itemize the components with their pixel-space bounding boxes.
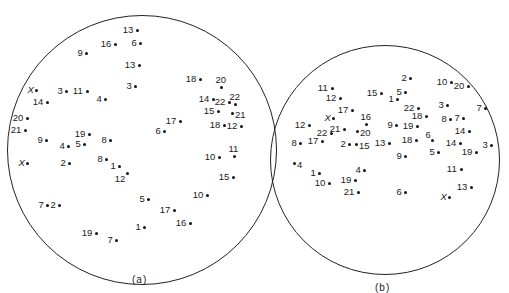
point-marker: [67, 145, 70, 148]
point-label: 12: [326, 93, 337, 103]
point-label: 3: [482, 140, 487, 150]
point-marker: [138, 64, 141, 67]
point-marker: [147, 198, 150, 201]
point-marker: [415, 139, 418, 142]
point-marker: [484, 107, 487, 110]
point-marker: [240, 125, 243, 128]
point-marker: [136, 29, 139, 32]
point-label: 8: [97, 154, 102, 164]
point-label: 10: [315, 178, 326, 188]
point-label: 14: [33, 97, 44, 107]
point-marker: [328, 182, 331, 185]
point-marker: [83, 143, 86, 146]
point-label: 13: [375, 138, 386, 148]
point-marker: [330, 132, 333, 135]
point-label: 4: [355, 165, 360, 175]
point-marker: [470, 186, 473, 189]
point-marker: [363, 169, 366, 172]
point-marker: [321, 140, 324, 143]
point-marker: [104, 98, 107, 101]
point-label: 11: [447, 164, 457, 174]
point-label: 18: [402, 135, 413, 145]
point-label: 1: [110, 161, 115, 171]
point-marker: [24, 129, 27, 132]
point-label: 10: [205, 152, 216, 162]
point-marker: [404, 155, 407, 158]
point-marker: [355, 143, 358, 146]
point-label: 8: [441, 114, 446, 124]
point-marker: [448, 196, 451, 199]
point-marker: [431, 139, 434, 142]
point-label: 17: [308, 136, 319, 146]
point-label: 15: [219, 172, 230, 182]
point-marker: [46, 101, 49, 104]
point-marker: [134, 85, 137, 88]
point-label: 13: [457, 182, 468, 192]
point-marker: [468, 130, 471, 133]
point-label: 19: [75, 129, 86, 139]
point-marker: [218, 156, 221, 159]
point-marker: [179, 120, 182, 123]
point-label: 10: [437, 77, 448, 87]
point-label: X: [27, 85, 33, 95]
point-marker: [26, 117, 29, 120]
point-marker: [293, 162, 296, 165]
point-label: 1: [135, 222, 140, 232]
point-label: 17: [166, 116, 177, 126]
point-label: 12: [227, 121, 238, 131]
point-marker: [46, 204, 49, 207]
point-label: 4: [297, 160, 302, 170]
point-marker: [65, 90, 68, 93]
point-marker: [45, 139, 48, 142]
point-marker: [206, 194, 209, 197]
point-marker: [357, 191, 360, 194]
point-label: 10: [193, 190, 204, 200]
point-marker: [446, 104, 449, 107]
point-label: 4: [59, 141, 64, 151]
point-label: 9: [77, 48, 82, 58]
point-marker: [220, 86, 223, 89]
point-label: 17: [160, 205, 171, 215]
point-label: 9: [37, 135, 42, 145]
point-label: 18: [412, 111, 423, 121]
point-marker: [118, 165, 121, 168]
point-marker: [365, 123, 368, 126]
point-label: 11: [73, 86, 83, 96]
point-marker: [467, 85, 470, 88]
point-marker: [114, 43, 117, 46]
point-marker: [409, 77, 412, 80]
point-marker: [139, 42, 142, 45]
point-marker: [356, 130, 359, 133]
point-marker: [95, 232, 98, 235]
point-label: 2: [60, 158, 65, 168]
point-marker: [475, 151, 478, 154]
point-marker: [85, 52, 88, 55]
point-label: 14: [199, 94, 210, 104]
point-label: 5: [139, 194, 144, 204]
point-marker: [425, 115, 428, 118]
point-label: 7: [38, 200, 43, 210]
point-label: 3: [57, 86, 62, 96]
point-marker: [26, 162, 29, 165]
point-label: 18: [210, 120, 221, 130]
point-label: 9: [396, 151, 401, 161]
point-marker: [416, 125, 419, 128]
point-marker: [115, 239, 118, 242]
point-marker: [348, 143, 351, 146]
point-label: X: [324, 113, 330, 123]
point-marker: [86, 90, 89, 93]
point-marker: [232, 176, 235, 179]
point-label: 6: [155, 126, 160, 136]
point-label: 1: [388, 94, 393, 104]
point-marker: [109, 139, 112, 142]
point-label: 16: [176, 218, 187, 228]
point-label: 3: [438, 100, 443, 110]
point-marker: [404, 91, 407, 94]
point-label: 6: [425, 130, 430, 140]
point-label: 6: [131, 38, 136, 48]
point-marker: [395, 124, 398, 127]
point-marker: [396, 98, 399, 101]
point-marker: [404, 191, 407, 194]
point-label: 2: [401, 73, 406, 83]
panel-b-circle: [270, 45, 500, 275]
